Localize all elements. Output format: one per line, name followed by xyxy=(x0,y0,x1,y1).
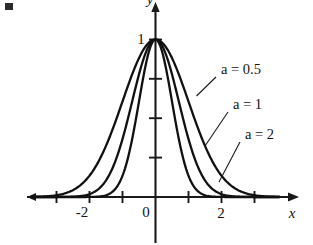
label-a-0-5: a = 0.5 xyxy=(221,61,261,77)
y-axis-label-1: 1 xyxy=(137,31,145,47)
figure-container: -2 0 2 1 x y a = 0.5 a = 1 a = 2 xyxy=(0,0,313,245)
x-axis-label-2: 2 xyxy=(217,205,225,221)
scan-corner-mark xyxy=(5,3,13,10)
y-axis-name: y xyxy=(145,0,154,7)
leader-line-a-1 xyxy=(205,112,228,146)
x-axis-label-0: 0 xyxy=(142,204,150,220)
label-a-2: a = 2 xyxy=(245,126,274,142)
label-a-1: a = 1 xyxy=(233,96,262,112)
leader-line-a-2 xyxy=(219,142,240,182)
x-axis-name: x xyxy=(288,205,296,221)
leader-line-a-0-5 xyxy=(197,77,217,96)
x-axis-right-arrow-icon xyxy=(288,193,299,202)
x-axis-label-minus2: -2 xyxy=(76,204,89,220)
plot-svg: -2 0 2 1 x y a = 0.5 a = 1 a = 2 xyxy=(0,0,313,245)
